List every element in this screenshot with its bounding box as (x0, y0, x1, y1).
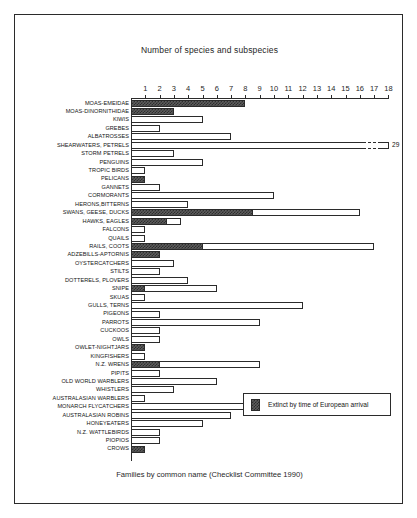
bar-row: DOTTERELS, PLOVERS (15, 276, 404, 284)
bar-row-label: SKUAS (110, 293, 129, 301)
bar-total (131, 133, 231, 140)
bar-row: CUCKOOS (15, 327, 404, 335)
bar-row: HONEYEATERS (15, 420, 404, 428)
bar-value-label: 29 (392, 141, 399, 149)
legend-label-extinct: Extinct by time of European arrival (268, 394, 368, 415)
x-tick-label-4: 4 (186, 84, 190, 93)
bar-row: TROPIC BIRDS (15, 167, 404, 175)
bar-row-label: HAWKS, EAGLES (83, 217, 129, 225)
bar-row: N.Z. WATTLEBIRDS (15, 428, 404, 436)
bar-row-label: HONEYEATERS (87, 419, 129, 427)
bar-row: FALCONS (15, 226, 404, 234)
bar-row-label: OWLS (112, 335, 129, 343)
x-tick-label-17: 17 (370, 84, 378, 93)
bar-total (131, 268, 160, 275)
bar-row-label: STILTS (110, 267, 129, 275)
bar-total-segment-end (381, 142, 389, 149)
bar-row: OYSTERCATCHERS (15, 259, 404, 267)
bar-row: SKUAS (15, 293, 404, 301)
bar-row: KINGFISHERS (15, 352, 404, 360)
bar-row-label: N.Z. WRENS (96, 360, 129, 368)
bar-chart-plot: 123456789101112131415161718 MOAS-EMEIDAE… (15, 15, 404, 505)
bar-row-label: OWLET-NIGHTJARS (75, 343, 129, 351)
x-tick-label-7: 7 (229, 84, 233, 93)
bar-row-label: OYSTERCATCHERS (75, 259, 129, 267)
bar-row: N.Z. WRENS (15, 361, 404, 369)
bar-row-label: TROPIC BIRDS (89, 166, 129, 174)
bar-row-label: HERONS,BITTERNS (75, 200, 129, 208)
bar-row: QUAILS (15, 234, 404, 242)
x-tick-label-18: 18 (384, 84, 392, 93)
bar-total (131, 336, 160, 343)
bar-row: PENGUINS (15, 158, 404, 166)
bar-total (131, 159, 203, 166)
bar-extinct-portion (131, 108, 174, 115)
bar-row-label: SHEARWATERS, PETRELS (57, 141, 129, 149)
x-tick-label-14: 14 (327, 84, 335, 93)
bar-row-label: AUSTRALASIAN ROBINS (62, 411, 129, 419)
bar-row-label: WHISTLERS (96, 385, 129, 393)
bar-row: PIOPIOS (15, 437, 404, 445)
bar-total (131, 116, 203, 123)
x-axis-ticks: 123456789101112131415161718 (131, 84, 389, 98)
x-tick-label-16: 16 (356, 84, 364, 93)
bar-total (131, 420, 203, 427)
bar-extinct-portion (131, 218, 167, 225)
bar-total (131, 125, 160, 132)
bar-extinct-portion (131, 176, 145, 183)
bar-row: SHEARWATERS, PETRELS29 (15, 141, 404, 149)
bar-total (131, 311, 160, 318)
bar-total (131, 235, 145, 242)
bar-total (131, 412, 231, 419)
bar-total (131, 319, 260, 326)
x-tick-label-12: 12 (298, 84, 306, 93)
bar-row-label: RAILS, COOTS (89, 242, 129, 250)
bar-row-label: FALCONS (103, 225, 129, 233)
bar-total (131, 226, 145, 233)
bar-row: OWLET-NIGHTJARS (15, 344, 404, 352)
x-tick-label-3: 3 (172, 84, 176, 93)
bar-row: CROWS (15, 445, 404, 453)
bar-row-label: ALBATROSSES (88, 132, 129, 140)
bar-row: GANNETS (15, 183, 404, 191)
x-axis-caption: Families by common name (Checklist Commi… (15, 470, 404, 479)
bar-row: STORM PETRELS (15, 150, 404, 158)
x-tick-label-1: 1 (143, 84, 147, 93)
x-tick-label-11: 11 (284, 84, 292, 93)
bar-extinct-portion (131, 100, 245, 107)
bar-row: GREBES (15, 124, 404, 132)
bar-extinct-portion (131, 285, 145, 292)
bar-total (131, 192, 274, 199)
bar-row: CORMORANTS (15, 192, 404, 200)
bar-row: HAWKS, EAGLES (15, 217, 404, 225)
bar-total (131, 167, 145, 174)
bar-total (131, 378, 217, 385)
legend-swatch-extinct (251, 399, 260, 411)
x-tick-label-6: 6 (215, 84, 219, 93)
x-tick-label-5: 5 (200, 84, 204, 93)
bar-total (131, 260, 174, 267)
bar-total (131, 302, 303, 309)
bar-total (131, 403, 245, 410)
bar-row-label: N.Z. WATTLEBIRDS (77, 428, 129, 436)
bar-row-label: MOAS-EMEIDAE (85, 99, 129, 107)
bar-row-label: STORM PETRELS (81, 149, 129, 157)
bar-row: GULLS, TERNS (15, 302, 404, 310)
bar-row-label: PIPITS (111, 369, 129, 377)
bar-total (131, 150, 174, 157)
bar-row: PIGEONS (15, 310, 404, 318)
bar-total (131, 429, 160, 436)
bar-row-label: KINGFISHERS (91, 352, 129, 360)
bar-row: ADZEBILLS-APTORNIS (15, 251, 404, 259)
bar-axis-break (363, 142, 382, 149)
x-tick-label-9: 9 (258, 84, 262, 93)
bar-extinct-portion (131, 344, 145, 351)
bar-total (131, 294, 145, 301)
bar-row-label: KIWIS (113, 115, 129, 123)
bar-row-label: PENGUINS (99, 158, 129, 166)
bar-extinct-portion (131, 243, 203, 250)
legend: Extinct by time of European arrival (243, 393, 391, 416)
bar-row: PARROTS (15, 318, 404, 326)
bar-total (131, 201, 188, 208)
bar-row-label: MONARCH FLYCATCHERS (57, 402, 129, 410)
